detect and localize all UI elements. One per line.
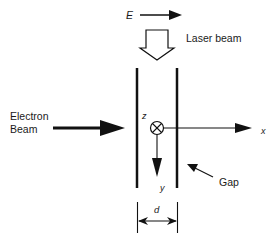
coordinate-axes: z x y xyxy=(141,111,266,193)
gap-arrow-head-icon xyxy=(187,164,198,172)
gap-pointer-line xyxy=(193,167,213,177)
y-axis-label: y xyxy=(159,183,165,193)
electric-field-arrow: E xyxy=(126,9,182,21)
electron-beam-arrow: Electron Beam xyxy=(10,110,125,136)
electron-arrow-head-icon xyxy=(100,120,125,136)
x-axis-arrow-head-icon xyxy=(235,123,252,133)
dimension-label: d xyxy=(154,204,160,215)
electron-label-line2: Beam xyxy=(10,123,38,135)
x-axis-label: x xyxy=(260,126,266,136)
y-axis-arrow-head-icon xyxy=(152,158,162,177)
into-page-circle-x-icon xyxy=(151,122,164,135)
laser-beam-arrow: Laser beam xyxy=(140,30,242,60)
laser-electron-gap-diagram: E Laser beam Electron Beam z x y Ga xyxy=(0,0,280,243)
field-label: E xyxy=(126,9,134,21)
gap-callout: Gap xyxy=(187,164,239,188)
hollow-down-arrow-icon xyxy=(140,30,174,60)
field-arrow-head-icon xyxy=(169,10,182,20)
gap-width-dimension: d xyxy=(138,202,178,233)
z-axis-label: z xyxy=(141,111,147,121)
laser-beam-label: Laser beam xyxy=(186,32,242,44)
electron-label-line1: Electron xyxy=(10,110,49,122)
gap-label: Gap xyxy=(219,176,239,188)
